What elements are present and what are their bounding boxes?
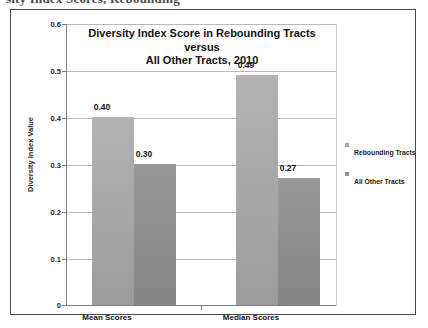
bar-allother-median[interactable] [278, 178, 320, 305]
bar-allother-mean[interactable] [134, 164, 176, 305]
legend-label-allother: All Other Tracts [354, 178, 405, 185]
bar-rebounding-mean[interactable] [92, 117, 134, 305]
legend-swatch-icon-rebounding [345, 143, 349, 147]
value-label-rebounding-mean: 0.40 [81, 102, 123, 112]
clipped-caption-text: sity Index Scores, Rebounding [6, 0, 180, 7]
value-label-allother-median: 0.27 [267, 163, 309, 173]
plot-right-edge [336, 24, 337, 306]
value-label-rebounding-median: 0.49 [225, 60, 267, 70]
y-label-0.1: 0.1 [15, 255, 61, 264]
x-category-mean-scores: Mean Scores [57, 313, 157, 322]
legend-swatch-icon-allother [345, 172, 349, 176]
y-tick-0 [62, 305, 67, 306]
bar-rebounding-median[interactable] [236, 75, 278, 305]
legend-label-rebounding: Rebounding Tracts [354, 149, 416, 156]
y-label-0.2: 0.2 [15, 208, 61, 217]
legend-item-rebounding-tracts[interactable]: Rebounding Tracts [345, 141, 423, 159]
y-axis-title: Diversity Index Value [26, 100, 35, 210]
y-label-0: 0 [15, 301, 61, 310]
y-label-0.5: 0.5 [15, 67, 61, 76]
chart-legend: Rebounding Tracts All Other Tracts [345, 141, 423, 199]
y-label-0.3: 0.3 [15, 161, 61, 170]
y-label-0.6: 0.6 [15, 20, 61, 29]
y-label-0.4: 0.4 [15, 114, 61, 123]
value-label-allother-mean: 0.30 [123, 149, 165, 159]
legend-item-all-other-tracts[interactable]: All Other Tracts [345, 170, 423, 188]
figure-frame: Diversity Index Score in Rebounding Trac… [10, 9, 416, 315]
clipped-caption-strip: sity Index Scores, Rebounding [0, 0, 428, 8]
x-category-median-scores: Median Scores [201, 313, 301, 322]
y-axis-tick-labels: 0.6 0.5 0.4 0.3 0.2 0.1 0 [11, 10, 61, 328]
